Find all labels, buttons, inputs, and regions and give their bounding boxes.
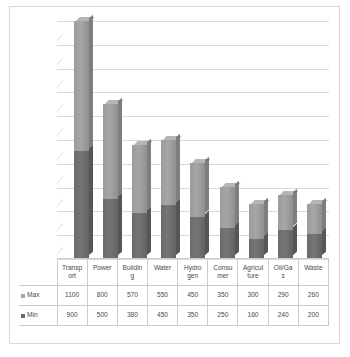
bar-segment-min[interactable]: [278, 230, 293, 258]
category-label-line2: [299, 272, 328, 280]
table-row: Max1100800570550450350300290260: [19, 286, 329, 306]
bar-segment-max[interactable]: [249, 204, 264, 240]
wall-tick: [57, 199, 64, 212]
table-category-header: Waste: [298, 259, 328, 286]
bar-slot: [242, 21, 271, 258]
wall-tick: [57, 57, 64, 70]
wall-tick: [57, 128, 64, 141]
category-label-line1: Power: [88, 264, 117, 272]
legend-series-name: Max: [27, 291, 39, 298]
table-cell-value: 500: [87, 306, 117, 326]
plot-area: [57, 21, 329, 259]
category-label-line2: ture: [238, 272, 267, 280]
table-cell-value: 290: [268, 286, 298, 306]
bar-segment-min[interactable]: [307, 234, 322, 258]
category-label-line1: Water: [148, 264, 177, 272]
wall-tick: [57, 33, 64, 46]
bar-slot: [213, 21, 242, 258]
table-cell-value: 350: [178, 306, 208, 326]
category-label-line2: [148, 272, 177, 280]
category-label-line2: s: [269, 272, 298, 280]
bar-stack[interactable]: [103, 104, 118, 258]
table-cell-value: 900: [57, 306, 87, 326]
bar-segment-max[interactable]: [190, 163, 205, 216]
wall-tick: [57, 80, 64, 93]
table-row: Min900500380450350250160240200: [19, 306, 329, 326]
table-cell-value: 800: [87, 286, 117, 306]
wall-tick: [57, 104, 64, 117]
table-category-header: Power: [87, 259, 117, 286]
bar-segment-max[interactable]: [103, 104, 118, 199]
bar-slot: [300, 21, 329, 258]
bar-segment-max[interactable]: [74, 21, 89, 151]
bar-stack[interactable]: [278, 195, 293, 258]
table-cell-value: 200: [298, 306, 328, 326]
category-label-line2: gen: [178, 272, 207, 280]
bar-slot: [271, 21, 300, 258]
category-label-line1: Hydro: [178, 264, 207, 272]
bar-segment-max[interactable]: [278, 195, 293, 229]
bar-slot: [183, 21, 212, 258]
table-category-header: Transport: [57, 259, 87, 286]
bar-segment-min[interactable]: [103, 199, 118, 258]
table-cell-value: 1100: [57, 286, 87, 306]
bar-slot: [154, 21, 183, 258]
category-label-line2: ort: [58, 272, 87, 280]
category-label-line1: Agricul: [238, 264, 267, 272]
category-label-line2: g: [118, 272, 147, 280]
bar-stack[interactable]: [190, 163, 205, 258]
table-corner-cell: [19, 259, 57, 286]
table-cell-value: 240: [268, 306, 298, 326]
bar-stack[interactable]: [132, 145, 147, 258]
table-cell-value: 300: [238, 286, 268, 306]
bar-slot: [125, 21, 154, 258]
legend-swatch-icon: [21, 294, 25, 298]
category-label-line1: Waste: [299, 264, 328, 272]
table-cell-value: 250: [208, 306, 238, 326]
category-label-line1: Transp: [58, 264, 87, 272]
table-category-header: Consumer: [208, 259, 238, 286]
bar-segment-max[interactable]: [307, 204, 322, 235]
bar-segment-min[interactable]: [220, 228, 235, 258]
bar-segment-min[interactable]: [74, 151, 89, 258]
bar-stack[interactable]: [74, 21, 89, 258]
category-label-line2: [88, 272, 117, 280]
bar-segment-max[interactable]: [161, 140, 176, 205]
wall-tick: [57, 21, 64, 22]
category-label-line1: Oil/Ga: [269, 264, 298, 272]
table-header-row: TransportPower BuildingWater HydrogenCon…: [19, 259, 329, 286]
table-category-header: Oil/Gas: [268, 259, 298, 286]
legend-series-name: Min: [27, 311, 38, 318]
bar-segment-max[interactable]: [132, 145, 147, 213]
category-label-line1: Consu: [208, 264, 237, 272]
bar-segment-min[interactable]: [190, 217, 205, 258]
chart-data-table: TransportPower BuildingWater HydrogenCon…: [19, 259, 329, 326]
bar-series-group: [67, 21, 329, 258]
table-category-header: Hydrogen: [178, 259, 208, 286]
legend-item-max[interactable]: Max: [19, 286, 57, 306]
wall-tick: [57, 176, 64, 189]
bar-segment-max[interactable]: [220, 187, 235, 228]
category-label-line2: mer: [208, 272, 237, 280]
table-cell-value: 260: [298, 286, 328, 306]
axis-side-wall: [57, 21, 67, 259]
table-cell-value: 450: [147, 306, 177, 326]
bar-segment-min[interactable]: [161, 205, 176, 258]
bar-stack[interactable]: [307, 204, 322, 258]
bar-segment-min[interactable]: [249, 239, 264, 258]
legend-item-min[interactable]: Min: [19, 306, 57, 326]
wall-tick: [57, 223, 64, 236]
table-cell-value: 160: [238, 306, 268, 326]
bar-stack[interactable]: [161, 140, 176, 258]
category-label-line1: Buildin: [118, 264, 147, 272]
bar-stack[interactable]: [220, 187, 235, 258]
bar-slot: [96, 21, 125, 258]
table-category-header: Agriculture: [238, 259, 268, 286]
table-category-header: Building: [117, 259, 147, 286]
bar-segment-min[interactable]: [132, 213, 147, 258]
table-cell-value: 450: [178, 286, 208, 306]
bar-stack[interactable]: [249, 204, 264, 259]
table-category-header: Water: [147, 259, 177, 286]
wall-tick: [57, 152, 64, 165]
bar-slot: [67, 21, 96, 258]
